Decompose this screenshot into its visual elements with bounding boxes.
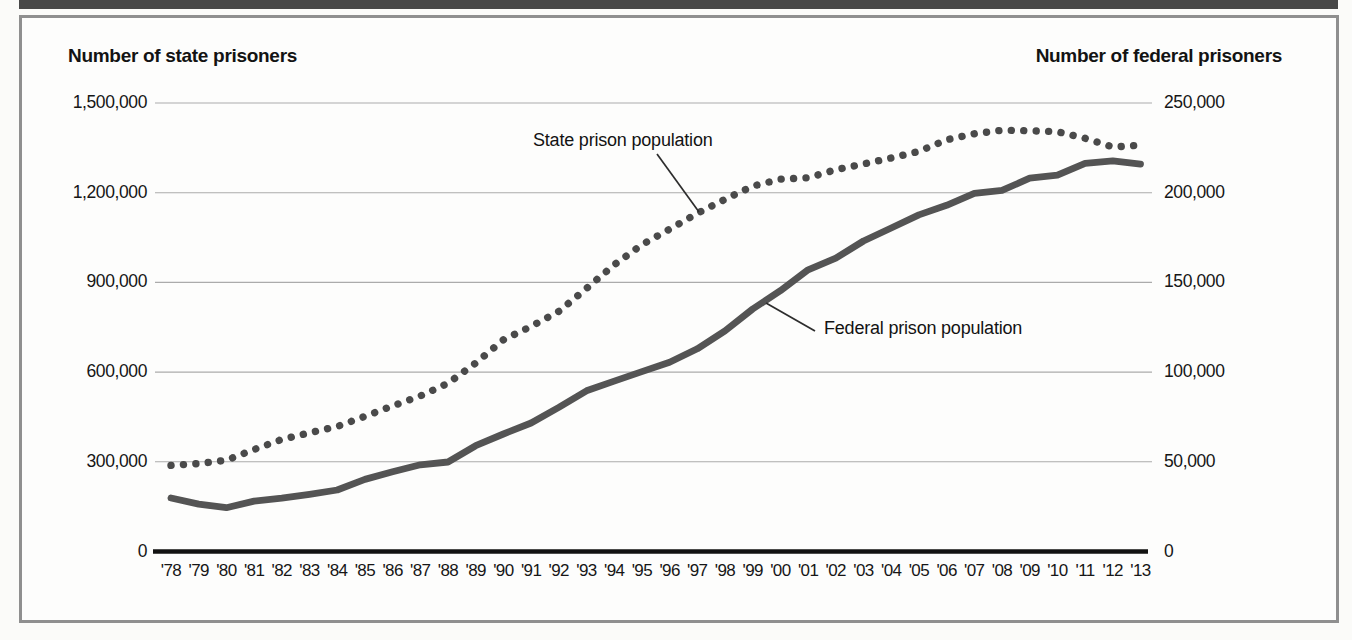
x-axis-year-label: '81 — [244, 561, 264, 581]
x-axis-year-label: '96 — [659, 561, 679, 581]
x-axis-year-label: '01 — [798, 561, 818, 581]
page: Number of state prisoners Number of fede… — [0, 0, 1352, 640]
x-axis-year-label: '07 — [964, 561, 984, 581]
x-axis-year-label: '80 — [216, 561, 236, 581]
state-series-annotation: State prison population — [533, 130, 713, 151]
x-axis-year-label: '85 — [355, 561, 375, 581]
x-axis-year-label: '90 — [493, 561, 513, 581]
x-axis-year-label: '04 — [881, 561, 901, 581]
x-axis-year-label: '97 — [687, 561, 707, 581]
x-axis-year-label: '09 — [1020, 561, 1040, 581]
x-axis-year-label: '87 — [410, 561, 430, 581]
x-axis-year-label: '91 — [521, 561, 541, 581]
federal-series-annotation: Federal prison population — [824, 318, 1022, 339]
x-axis-year-label: '83 — [299, 561, 319, 581]
x-axis-year-label: '02 — [826, 561, 846, 581]
x-axis-year-label: '03 — [853, 561, 873, 581]
x-axis-year-label: '88 — [438, 561, 458, 581]
x-axis-year-label: '08 — [992, 561, 1012, 581]
x-axis-year-label: '82 — [272, 561, 292, 581]
x-axis-year-label: '94 — [604, 561, 624, 581]
x-axis-year-label: '95 — [632, 561, 652, 581]
x-axis-tick-labels: '78'79'80'81'82'83'84'85'86'87'88'89'90'… — [0, 0, 1352, 640]
x-axis-year-label: '00 — [770, 561, 790, 581]
x-axis-year-label: '98 — [715, 561, 735, 581]
x-axis-year-label: '10 — [1047, 561, 1067, 581]
x-axis-year-label: '86 — [382, 561, 402, 581]
x-axis-year-label: '05 — [909, 561, 929, 581]
x-axis-year-label: '12 — [1103, 561, 1123, 581]
x-axis-year-label: '99 — [743, 561, 763, 581]
x-axis-year-label: '84 — [327, 561, 347, 581]
x-axis-year-label: '92 — [549, 561, 569, 581]
x-axis-year-label: '78 — [161, 561, 181, 581]
x-axis-year-label: '06 — [936, 561, 956, 581]
x-axis-year-label: '13 — [1130, 561, 1150, 581]
x-axis-year-label: '11 — [1076, 561, 1095, 581]
x-axis-year-label: '93 — [576, 561, 596, 581]
x-axis-year-label: '79 — [189, 561, 209, 581]
x-axis-year-label: '89 — [466, 561, 486, 581]
